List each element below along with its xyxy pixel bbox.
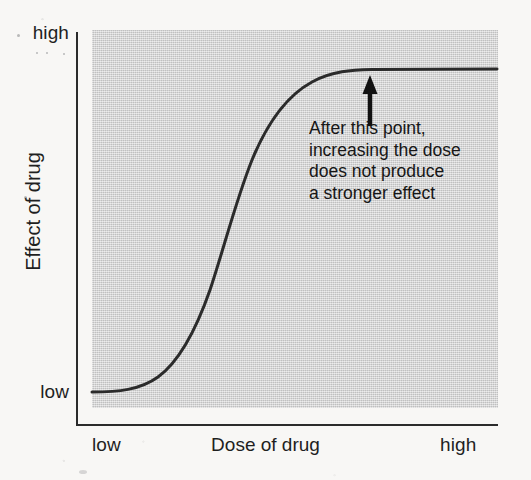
- y-axis-tick-high: high: [33, 22, 69, 44]
- annotation-line-2: increasing the dose: [309, 140, 491, 162]
- dose-response-figure: high low Effect of drug low high Dose of…: [0, 0, 531, 480]
- y-axis-title: Effect of drug: [22, 132, 45, 292]
- scan-speck: [79, 470, 87, 474]
- scan-speck: [63, 53, 65, 55]
- plateau-annotation: After this point, increasing the dose do…: [309, 118, 491, 204]
- x-axis-title: Dose of drug: [0, 434, 531, 456]
- scan-speck: [46, 52, 48, 54]
- y-axis-tick-low: low: [40, 381, 69, 403]
- x-axis-line: [76, 424, 498, 426]
- annotation-line-1: After this point,: [309, 118, 491, 140]
- scan-speck: [36, 52, 38, 54]
- annotation-line-3: does not produce: [309, 161, 491, 183]
- annotation-line-4: a stronger effect: [309, 183, 491, 205]
- y-axis-line: [76, 32, 78, 426]
- plot-area: [92, 30, 498, 408]
- scan-speck: [17, 34, 20, 37]
